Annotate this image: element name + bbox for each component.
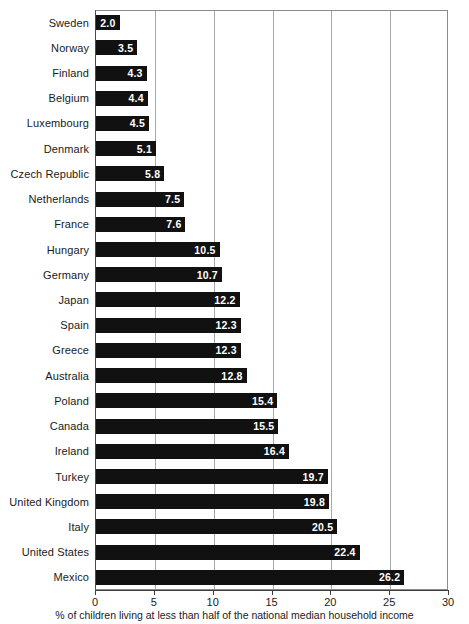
bar-track: 19.8: [96, 489, 469, 514]
x-axis-label: % of children living at less than half o…: [0, 609, 469, 621]
chart-title: [0, 0, 469, 3]
bar-track: 5.8: [96, 161, 469, 186]
bar-track: 15.5: [96, 413, 469, 438]
bar[interactable]: 16.4: [96, 444, 289, 459]
category-label: Mexico: [0, 565, 89, 590]
bar-track: 10.5: [96, 237, 469, 262]
bar-row[interactable]: Japan12.2: [0, 287, 469, 312]
bar-row[interactable]: Canada15.5: [0, 413, 469, 438]
bar-row[interactable]: Czech Republic5.8: [0, 161, 469, 186]
bar-row[interactable]: Hungary10.5: [0, 237, 469, 262]
bar[interactable]: 20.5: [96, 519, 337, 534]
category-label: Norway: [0, 35, 89, 60]
bar-row[interactable]: Italy20.5: [0, 514, 469, 539]
bar-row[interactable]: Australia12.8: [0, 363, 469, 388]
x-tick: [95, 590, 96, 595]
bar-track: 22.4: [96, 540, 469, 565]
x-tick-label: 0: [75, 596, 115, 608]
category-label: Poland: [0, 388, 89, 413]
bar-value-label: 7.5: [165, 193, 180, 205]
category-label: Canada: [0, 413, 89, 438]
bar[interactable]: 4.4: [96, 91, 148, 106]
bar[interactable]: 12.3: [96, 343, 241, 358]
x-tick-label: 10: [193, 596, 233, 608]
bar-row[interactable]: Netherlands7.5: [0, 187, 469, 212]
bar-value-label: 12.3: [215, 319, 236, 331]
bar-row[interactable]: United Kingdom19.8: [0, 489, 469, 514]
bar[interactable]: 3.5: [96, 40, 137, 55]
bar[interactable]: 12.3: [96, 318, 241, 333]
bar-value-label: 20.5: [312, 521, 333, 533]
bar-row[interactable]: Sweden2.0: [0, 10, 469, 35]
x-tick: [272, 590, 273, 595]
category-label: Australia: [0, 363, 89, 388]
x-tick-label: 25: [369, 596, 409, 608]
bar[interactable]: 12.2: [96, 292, 240, 307]
bar-row[interactable]: Norway3.5: [0, 35, 469, 60]
bar[interactable]: 10.5: [96, 242, 220, 257]
category-label: Turkey: [0, 464, 89, 489]
bar-value-label: 2.0: [100, 17, 115, 29]
x-tick: [389, 590, 390, 595]
bar-value-label: 19.8: [304, 496, 325, 508]
bar-track: 4.3: [96, 60, 469, 85]
category-label: Czech Republic: [0, 161, 89, 186]
bar-track: 26.2: [96, 565, 469, 590]
bar[interactable]: 5.1: [96, 141, 156, 156]
bar-track: 10.7: [96, 262, 469, 287]
bar[interactable]: 10.7: [96, 267, 222, 282]
bar-track: 16.4: [96, 439, 469, 464]
bar-row[interactable]: Belgium4.4: [0, 86, 469, 111]
category-label: Sweden: [0, 10, 89, 35]
bar[interactable]: 19.8: [96, 494, 329, 509]
category-label: Japan: [0, 287, 89, 312]
bar-value-label: 5.1: [137, 143, 152, 155]
bar-row[interactable]: Spain12.3: [0, 313, 469, 338]
bar-track: 12.3: [96, 313, 469, 338]
bar-row[interactable]: Luxembourg4.5: [0, 111, 469, 136]
bar-value-label: 12.2: [214, 294, 235, 306]
category-label: Spain: [0, 313, 89, 338]
bar[interactable]: 15.5: [96, 419, 278, 434]
bar-value-label: 19.7: [303, 471, 324, 483]
bar-track: 7.6: [96, 212, 469, 237]
bar-value-label: 22.4: [334, 546, 355, 558]
bar-row[interactable]: Mexico26.2: [0, 565, 469, 590]
category-label: Finland: [0, 60, 89, 85]
bar[interactable]: 5.8: [96, 166, 164, 181]
x-tick: [448, 590, 449, 595]
bar-row[interactable]: Turkey19.7: [0, 464, 469, 489]
bar-value-label: 4.5: [130, 117, 145, 129]
bar-row[interactable]: Finland4.3: [0, 60, 469, 85]
bar[interactable]: 7.6: [96, 217, 185, 232]
bar-track: 12.2: [96, 287, 469, 312]
x-tick-label: 30: [428, 596, 468, 608]
bar-track: 3.5: [96, 35, 469, 60]
bar-row[interactable]: Greece12.3: [0, 338, 469, 363]
bar[interactable]: 15.4: [96, 393, 277, 408]
bar[interactable]: 4.5: [96, 116, 149, 131]
bar-row[interactable]: France7.6: [0, 212, 469, 237]
bar[interactable]: 22.4: [96, 545, 360, 560]
bar-track: 4.4: [96, 86, 469, 111]
bar-track: 12.3: [96, 338, 469, 363]
category-label: Netherlands: [0, 187, 89, 212]
bar-row[interactable]: Poland15.4: [0, 388, 469, 413]
bar[interactable]: 7.5: [96, 192, 184, 207]
bar-value-label: 5.8: [145, 168, 160, 180]
bar-track: 19.7: [96, 464, 469, 489]
bar-value-label: 12.3: [215, 344, 236, 356]
bar-track: 5.1: [96, 136, 469, 161]
bar-row[interactable]: Denmark5.1: [0, 136, 469, 161]
bar[interactable]: 12.8: [96, 368, 247, 383]
category-label: Denmark: [0, 136, 89, 161]
bar[interactable]: 4.3: [96, 66, 147, 81]
bar-row[interactable]: Germany10.7: [0, 262, 469, 287]
bar[interactable]: 26.2: [96, 570, 404, 585]
bar-value-label: 16.4: [264, 445, 285, 457]
bar[interactable]: 2.0: [96, 15, 120, 30]
bar-row[interactable]: United States22.4: [0, 540, 469, 565]
bar-value-label: 26.2: [379, 571, 400, 583]
bar-row[interactable]: Ireland16.4: [0, 439, 469, 464]
bar[interactable]: 19.7: [96, 469, 328, 484]
